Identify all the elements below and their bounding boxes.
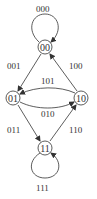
edge-label-010: 010 <box>41 109 55 119</box>
node-00-label: 00 <box>40 42 50 53</box>
node-11-label: 11 <box>40 143 50 154</box>
edge-00-00 <box>32 14 59 42</box>
edge-label-101: 101 <box>41 76 55 86</box>
edge-01-10 <box>20 102 74 108</box>
edge-00-01 <box>18 54 41 91</box>
edge-label-000: 000 <box>36 4 50 14</box>
edge-label-001: 001 <box>7 61 21 71</box>
edge-label-111: 111 <box>36 183 49 193</box>
edge-label-110: 110 <box>69 125 83 135</box>
edge-01-11 <box>18 105 40 141</box>
edge-label-100: 100 <box>69 61 83 71</box>
node-00: 00 <box>38 40 52 54</box>
node-01-label: 01 <box>8 93 18 104</box>
node-01: 01 <box>6 91 20 105</box>
edge-11-11 <box>31 153 58 178</box>
node-10: 10 <box>74 91 88 105</box>
node-11: 11 <box>38 141 52 155</box>
edge-10-01 <box>20 88 75 94</box>
edge-label-011: 011 <box>7 125 20 135</box>
state-diagram: 000 001 100 101 010 011 110 111 00 01 10… <box>0 0 97 199</box>
node-10-label: 10 <box>76 93 86 104</box>
